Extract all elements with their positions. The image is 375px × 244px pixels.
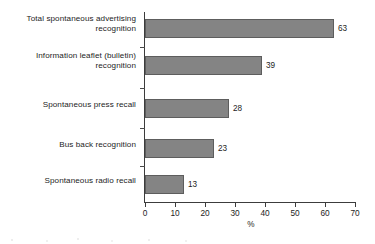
bar-chart-figure: Total spontaneous advertising recognitio… [0, 0, 375, 244]
x-axis-tick [325, 203, 326, 207]
scan-artifact-band [0, 236, 375, 244]
bar-value-label: 63 [338, 23, 347, 34]
y-axis-line [144, 12, 145, 203]
bar-value-label: 39 [266, 60, 275, 71]
x-axis-tick-label: 50 [280, 208, 310, 219]
x-axis-tick [295, 203, 296, 207]
x-axis-tick [205, 203, 206, 207]
x-axis-tick [145, 203, 146, 207]
x-axis-tick-label: 20 [190, 208, 220, 219]
x-axis-tick [265, 203, 266, 207]
category-label: Bus back recognition [0, 140, 136, 150]
x-axis-tick-label: 10 [160, 208, 190, 219]
y-axis-tick [140, 88, 145, 89]
plot-area: Total spontaneous advertising recognitio… [0, 0, 375, 244]
bar-spontaneous-press-recall[interactable] [145, 99, 229, 118]
x-axis-tick [175, 203, 176, 207]
x-axis-tick-label: 60 [310, 208, 340, 219]
x-axis-tick [355, 203, 356, 207]
bar-value-label: 23 [218, 143, 227, 154]
bar-bus-back-recognition[interactable] [145, 139, 214, 158]
x-axis-tick-label: 70 [340, 208, 370, 219]
bar-value-label: 13 [188, 179, 197, 190]
bar-information-leaflet-bulletin-recognition[interactable] [145, 56, 262, 75]
y-axis-tick [140, 47, 145, 48]
x-axis-tick-label: 0 [130, 208, 160, 219]
x-axis-tick [235, 203, 236, 207]
y-axis-tick [140, 166, 145, 167]
category-label: Spontaneous radio recall [0, 176, 136, 186]
category-label: Total spontaneous advertising recognitio… [0, 14, 136, 35]
chart-row: Bus back recognition 23 [0, 134, 375, 172]
x-axis-tick-label: 40 [250, 208, 280, 219]
category-label: Information leaflet (bulletin) recogniti… [0, 51, 136, 72]
bar-spontaneous-radio-recall[interactable] [145, 175, 184, 194]
x-axis-tick-label: 30 [220, 208, 250, 219]
bar-value-label: 28 [233, 103, 242, 114]
chart-row: Information leaflet (bulletin) recogniti… [0, 51, 375, 89]
y-axis-tick [140, 128, 145, 129]
chart-row: Spontaneous press recall 28 [0, 94, 375, 132]
category-label: Spontaneous press recall [0, 100, 136, 110]
bar-total-spontaneous-advertising-recognition[interactable] [145, 19, 334, 38]
chart-row: Total spontaneous advertising recognitio… [0, 14, 375, 52]
x-axis-title: % [236, 220, 266, 230]
